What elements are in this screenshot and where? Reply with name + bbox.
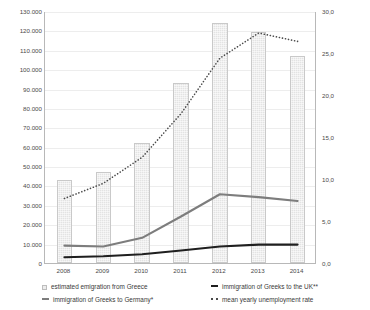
line-series	[64, 33, 297, 198]
legend-label-estimated-emigration: estimated emigration from Greece	[51, 283, 148, 290]
chart-legend: estimated emigration from Greece immigra…	[0, 280, 370, 310]
x-axis-tick-label: 2010	[121, 268, 161, 274]
legend-item-immigration-germany: immigration of Greeks to Germany*	[42, 296, 153, 304]
left-axis-tick-label: 120.000	[0, 28, 42, 34]
legend-item-unemployment-rate: mean yearly unemployment rate	[211, 296, 313, 304]
emigration-unemployment-chart: 010.00020.00030.00040.00050.00060.00070.…	[0, 0, 370, 310]
x-axis-tick-label: 2014	[277, 268, 317, 274]
left-axis-tick-label: 130.000	[0, 9, 42, 15]
left-axis-tick-label: 90.000	[0, 87, 42, 93]
left-axis-tick-label: 110.000	[0, 48, 42, 54]
x-axis-tick-label: 2012	[199, 268, 239, 274]
x-axis-tick-label: 2011	[160, 268, 200, 274]
left-axis-tick-label: 70.000	[0, 125, 42, 131]
right-axis-tick-label: 0,0	[322, 261, 362, 267]
plot-area	[44, 12, 316, 264]
right-axis-tick-label: 30,0	[322, 9, 362, 15]
legend-label-unemployment-rate: mean yearly unemployment rate	[222, 296, 313, 303]
legend-label-immigration-germany: immigration of Greeks to Germany*	[53, 296, 153, 303]
legend-item-immigration-uk: immigration of Greeks to the UK**	[211, 283, 318, 291]
legend-item-estimated-emigration: estimated emigration from Greece	[42, 283, 148, 291]
left-axis-tick-label: 0	[0, 261, 42, 267]
x-axis-tick-label: 2013	[238, 268, 278, 274]
left-axis-tick-label: 100.000	[0, 67, 42, 73]
legend-label-immigration-uk: immigration of Greeks to the UK**	[222, 283, 318, 290]
left-axis-tick-label: 20.000	[0, 222, 42, 228]
right-axis-tick-label: 25,0	[322, 51, 362, 57]
dotted-line-swatch-icon	[211, 298, 218, 300]
line-series-overlay	[45, 12, 317, 264]
right-axis-tick-label: 5,0	[322, 219, 362, 225]
left-axis-tick-label: 30.000	[0, 203, 42, 209]
right-axis-tick-label: 10,0	[322, 177, 362, 183]
left-axis-tick-label: 10.000	[0, 242, 42, 248]
left-axis-tick-label: 60.000	[0, 145, 42, 151]
left-axis-tick-label: 40.000	[0, 183, 42, 189]
line-series	[64, 194, 297, 246]
right-axis-tick-label: 15,0	[322, 135, 362, 141]
bar-swatch-icon	[42, 285, 47, 290]
line-swatch-icon-germany	[42, 298, 49, 300]
left-axis-tick-label: 80.000	[0, 106, 42, 112]
left-axis-tick-label: 50.000	[0, 164, 42, 170]
line-swatch-icon-uk	[211, 285, 218, 287]
x-axis-tick-label: 2008	[43, 268, 83, 274]
x-axis-tick-label: 2009	[82, 268, 122, 274]
right-axis-tick-label: 20,0	[322, 93, 362, 99]
